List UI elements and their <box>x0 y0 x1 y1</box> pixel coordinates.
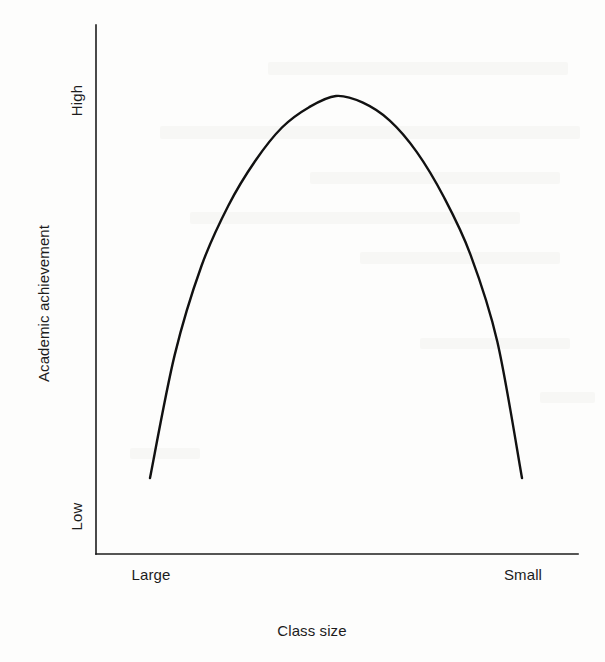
x-axis-tick-label-large: Large <box>120 566 182 583</box>
x-axis-title: Class size <box>257 622 367 639</box>
chart-figure: High Low Academic achievement Large Smal… <box>0 0 605 662</box>
x-axis-tick-label-small: Small <box>492 566 554 583</box>
y-axis-title: Academic achievement <box>35 209 52 399</box>
plot-area <box>0 0 605 662</box>
y-axis-tick-label-low: Low <box>68 491 85 543</box>
achievement-curve <box>150 96 522 478</box>
y-axis-tick-label-high: High <box>68 73 85 129</box>
